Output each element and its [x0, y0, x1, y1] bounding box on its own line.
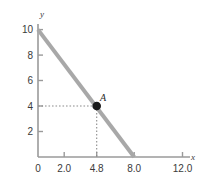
x-axis-title: x [190, 152, 195, 162]
y-tick-label-10: 10 [22, 24, 34, 35]
data-point-a-label: A [99, 92, 107, 103]
x-tick-label-48: 4.8 [90, 163, 104, 174]
chart-canvas: A y x 10 8 6 4 2 0 2.0 4.8 8.0 12.0 [0, 0, 204, 185]
y-tick-label-2: 2 [27, 126, 33, 137]
chart-figure: A y x 10 8 6 4 2 0 2.0 4.8 8.0 12.0 [0, 0, 204, 185]
x-tick-label-12: 12.0 [173, 163, 193, 174]
y-tick-label-4: 4 [27, 101, 33, 112]
y-axis-title: y [39, 9, 44, 19]
x-tick-label-8: 8.0 [127, 163, 141, 174]
y-tick-label-8: 8 [27, 50, 33, 61]
x-tick-label-0: 0 [35, 163, 41, 174]
y-tick-label-6: 6 [27, 75, 33, 86]
x-tick-label-2: 2.0 [57, 163, 71, 174]
